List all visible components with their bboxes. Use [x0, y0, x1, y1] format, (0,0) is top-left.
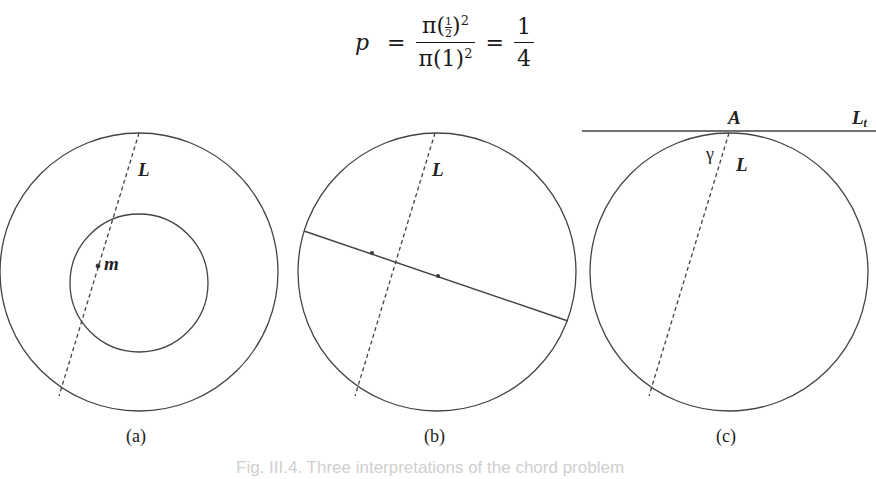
label-gamma: γ — [705, 144, 714, 164]
circle-c — [590, 133, 868, 411]
inner-circle-a — [70, 214, 208, 352]
midpoint-dot — [96, 264, 100, 268]
label-L-tangent: Lt — [851, 107, 868, 130]
chord-marker-1 — [371, 252, 374, 255]
label-m: m — [104, 253, 119, 274]
label-L-b: L — [431, 159, 444, 180]
figure-caption: Fig. III.4. Three interpretations of the… — [236, 458, 624, 478]
dashed-radius-b — [355, 133, 435, 396]
label-A: A — [727, 107, 741, 128]
chord-marker-2 — [437, 275, 440, 278]
dashed-radius-c — [649, 133, 729, 396]
panel-c — [582, 131, 876, 411]
chord-figure: L m L A Lt γ L (a) (b) (c) — [0, 0, 876, 479]
label-L-a: L — [137, 159, 150, 180]
caption-a: (a) — [126, 426, 146, 447]
caption-c: (c) — [716, 426, 736, 447]
caption-b: (b) — [424, 426, 445, 447]
label-L-c: L — [735, 154, 748, 175]
